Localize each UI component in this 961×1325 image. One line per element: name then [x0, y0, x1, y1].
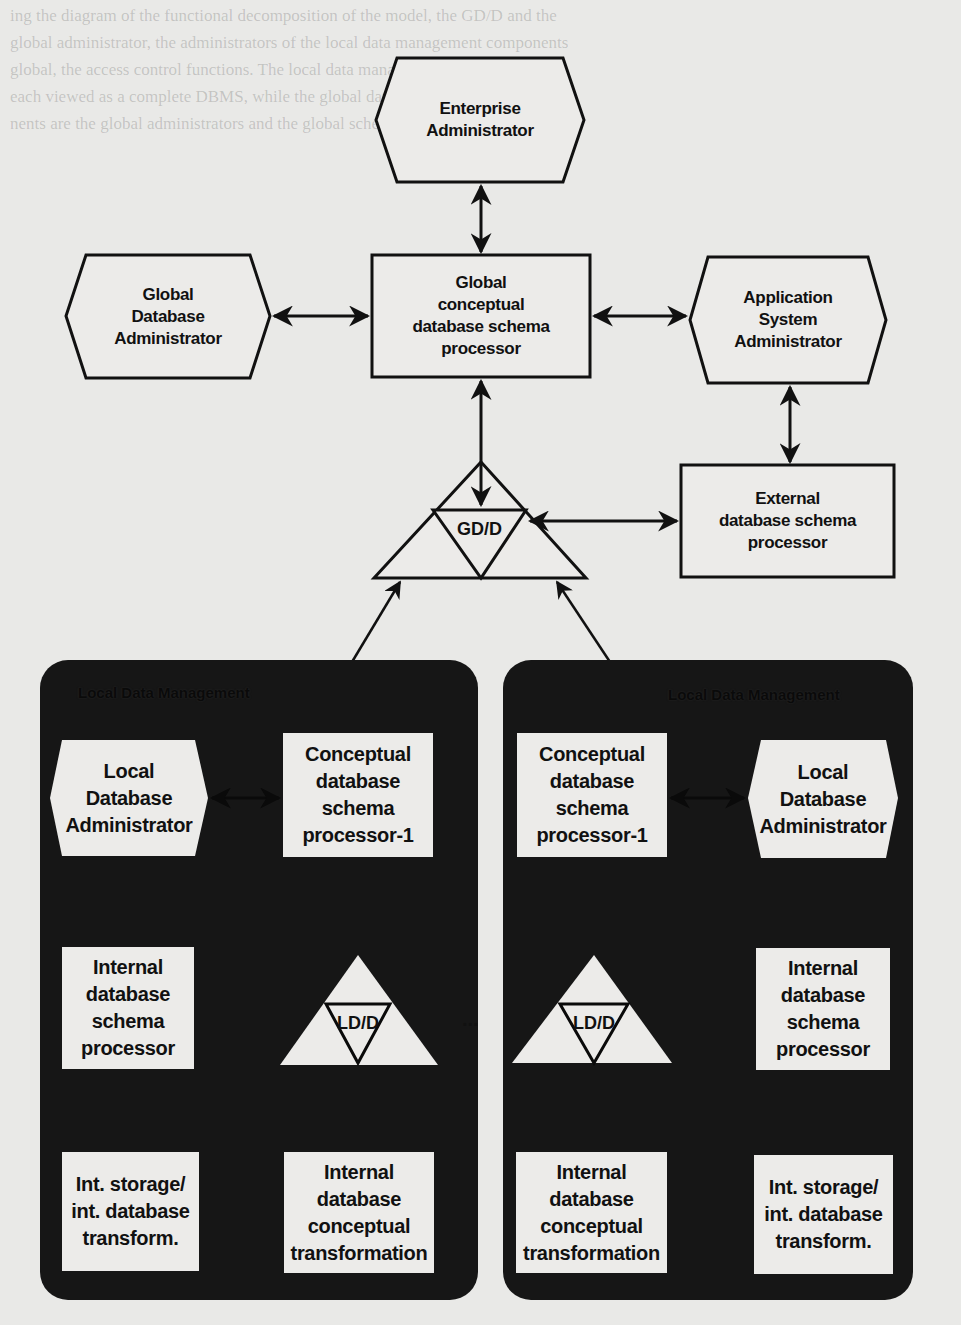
global-conceptual-processor-label: Global conceptual database schema proces… [372, 255, 590, 377]
right-local-db-admin-label: Local Database Administrator [748, 740, 898, 858]
right-conceptual-processor-label: Conceptual database schema processor-1 [517, 733, 667, 857]
right-int-storage-label: Int. storage/ int. database transform. [754, 1155, 893, 1274]
left-local-db-admin-label: Local Database Administrator [50, 740, 208, 856]
right-internal-processor-label: Internal database schema processor [756, 948, 890, 1070]
right-panel-header: Local Data Management [668, 686, 840, 703]
left-int-storage-label: Int. storage/ int. database transform. [62, 1152, 199, 1271]
right-ldd-label: LD/D [560, 1008, 628, 1038]
gdd-label: GD/D [433, 514, 526, 544]
more-panels-ellipsis: ... [462, 1008, 479, 1031]
global-db-admin-label: Global Database Administrator [66, 255, 270, 378]
left-panel-header: Local Data Management [78, 684, 250, 701]
architecture-diagram [0, 0, 961, 1325]
right-internal-conceptual-transform-label: Internal database conceptual transformat… [516, 1152, 667, 1273]
left-internal-processor-label: Internal database schema processor [62, 947, 194, 1069]
external-processor-label: External database schema processor [681, 465, 894, 577]
enterprise-admin-label: Enterprise Administrator [376, 58, 584, 182]
left-conceptual-processor-label: Conceptual database schema processor-1 [283, 733, 433, 857]
application-system-admin-label: Application System Administrator [690, 257, 886, 383]
left-internal-conceptual-transform-label: Internal database conceptual transformat… [284, 1152, 434, 1273]
left-ldd-label: LD/D [326, 1008, 390, 1038]
